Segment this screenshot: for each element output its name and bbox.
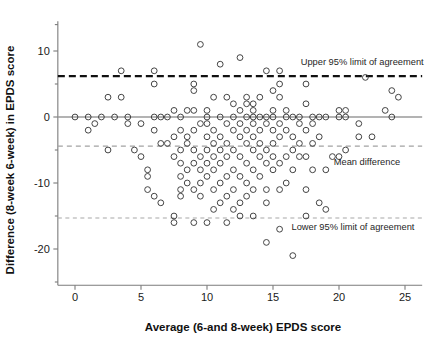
y-tick-label: -10 [34,177,50,189]
plot-background [0,0,434,339]
y-tick-label: -20 [34,243,50,255]
x-tick-label: 5 [138,291,144,303]
y-tick-label: 0 [44,111,50,123]
y-axis-title: Difference (8-week 6-week) in EPDS score [4,46,16,275]
x-tick-label: 25 [399,291,411,303]
x-axis-title: Average (6-and 8-week) EPDS score [145,321,341,333]
y-tick-label: 10 [38,45,50,57]
plot-canvas: 0510152025100-10-20 Upper 95% limit of a… [0,0,434,339]
x-tick-label: 15 [267,291,279,303]
lower-95-limit-of-agreement-label: Lower 95% limit of agreement [291,222,414,232]
x-tick-label: 20 [333,291,345,303]
bland-altman-figure: 0510152025100-10-20 Upper 95% limit of a… [0,0,434,339]
upper-95-limit-of-agreement-label: Upper 95% limit of agreement [301,57,424,67]
x-tick-label: 0 [72,291,78,303]
mean-difference-label: Mean difference [334,157,401,167]
x-tick-label: 10 [201,291,213,303]
